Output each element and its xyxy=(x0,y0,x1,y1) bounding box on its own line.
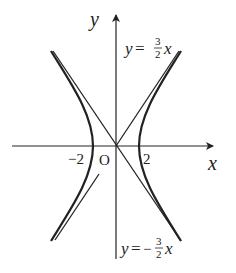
asymptote-positive-upper xyxy=(116,51,179,146)
asymptote-label-positive: y = 3 2 x xyxy=(123,35,172,60)
svg-text:−: − xyxy=(143,241,151,257)
svg-text:3: 3 xyxy=(156,235,162,247)
svg-text:x: x xyxy=(163,39,172,58)
hyperbola-diagram: y x O −2 2 y = 3 2 x y = − 3 2 x xyxy=(0,0,236,273)
svg-text:=: = xyxy=(135,39,145,58)
y-axis-label: y xyxy=(88,8,99,31)
svg-text:x: x xyxy=(164,239,173,258)
svg-text:2: 2 xyxy=(156,248,162,260)
tick-right-vertex: 2 xyxy=(143,151,151,167)
asymptote-label-negative: y = − 3 2 x xyxy=(119,235,173,260)
svg-text:=: = xyxy=(131,239,141,258)
svg-text:y: y xyxy=(123,39,133,58)
asymptote-positive-lower xyxy=(55,174,99,240)
tick-left-vertex: −2 xyxy=(68,151,84,167)
origin-label: O xyxy=(99,152,110,168)
svg-text:y: y xyxy=(119,239,129,258)
x-axis-label: x xyxy=(207,152,217,174)
svg-text:3: 3 xyxy=(155,35,161,47)
svg-text:2: 2 xyxy=(155,48,161,60)
